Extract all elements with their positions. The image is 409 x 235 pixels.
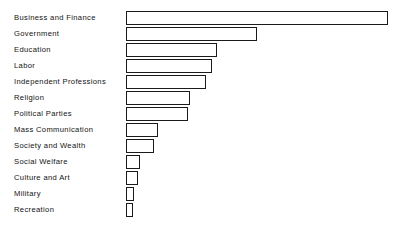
chart-row: Society and Wealth <box>0 138 409 154</box>
category-label: Mass Communication <box>14 122 93 138</box>
chart-row: Government <box>0 26 409 42</box>
category-label: Education <box>14 42 51 58</box>
bar <box>126 27 257 41</box>
chart-row: Business and Finance <box>0 10 409 26</box>
bar <box>126 11 388 25</box>
category-label: Recreation <box>14 202 54 218</box>
chart-row: Independent Professions <box>0 74 409 90</box>
category-label: Business and Finance <box>14 10 96 26</box>
chart-row: Military <box>0 186 409 202</box>
chart-row: Political Parties <box>0 106 409 122</box>
bar <box>126 43 217 57</box>
bar <box>126 187 134 201</box>
chart-row: Culture and Art <box>0 170 409 186</box>
chart-row: Mass Communication <box>0 122 409 138</box>
chart-row: Social Welfare <box>0 154 409 170</box>
horizontal-bar-chart: Business and FinanceGovernmentEducationL… <box>0 0 409 235</box>
chart-row: Religion <box>0 90 409 106</box>
category-label: Military <box>14 186 41 202</box>
category-label: Society and Wealth <box>14 138 86 154</box>
chart-row: Labor <box>0 58 409 74</box>
category-label: Social Welfare <box>14 154 68 170</box>
bar <box>126 91 190 105</box>
bar <box>126 59 212 73</box>
category-label: Religion <box>14 90 44 106</box>
category-label: Political Parties <box>14 106 72 122</box>
bar <box>126 203 133 217</box>
chart-rows: Business and FinanceGovernmentEducationL… <box>0 0 409 235</box>
chart-row: Recreation <box>0 202 409 218</box>
category-label: Labor <box>14 58 35 74</box>
category-label: Culture and Art <box>14 170 70 186</box>
bar <box>126 123 158 137</box>
bar <box>126 171 138 185</box>
bar <box>126 107 188 121</box>
bar <box>126 155 140 169</box>
bar <box>126 75 206 89</box>
category-label: Government <box>14 26 59 42</box>
chart-row: Education <box>0 42 409 58</box>
category-label: Independent Professions <box>14 74 106 90</box>
bar <box>126 139 154 153</box>
